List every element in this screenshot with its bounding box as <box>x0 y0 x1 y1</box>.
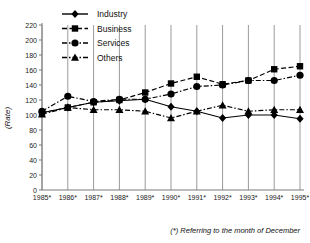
data-point-business-1995 <box>297 63 303 69</box>
y-tick-label: 20 <box>29 172 37 179</box>
legend-label-others: Others <box>97 53 123 63</box>
x-tick-label: 1989* <box>136 194 155 201</box>
data-point-business-1991 <box>194 74 200 80</box>
y-tick-label: 160 <box>25 67 37 74</box>
data-point-services-1992 <box>219 81 226 88</box>
y-tick-label: 80 <box>29 127 37 134</box>
legend-label-services: Services <box>97 38 130 48</box>
data-point-services-1986 <box>64 93 71 100</box>
y-tick-label: 0 <box>33 187 37 194</box>
data-point-industry-1990 <box>167 103 174 111</box>
data-point-industry-1995 <box>296 115 303 123</box>
data-point-services-1988 <box>116 96 123 103</box>
data-point-services-1990 <box>167 90 174 97</box>
data-point-business-1990 <box>168 80 174 86</box>
y-tick-label: 140 <box>25 82 37 89</box>
x-tick-label: 1988* <box>110 194 129 201</box>
x-tick-label: 1987* <box>84 194 103 201</box>
legend-label-business: Business <box>97 24 132 34</box>
x-tick-label: 1986* <box>59 194 78 201</box>
data-point-services-1995 <box>296 72 303 79</box>
y-tick-label: 120 <box>25 97 37 104</box>
y-tick-label: 60 <box>29 142 37 149</box>
y-tick-label: 200 <box>25 37 37 44</box>
data-point-services-1989 <box>142 96 149 103</box>
data-point-business-1994 <box>271 66 277 72</box>
legend-marker-industry <box>71 10 78 18</box>
x-tick-label: 1993* <box>239 194 258 201</box>
data-point-services-1993 <box>245 77 252 84</box>
x-tick-label: 1985* <box>33 194 52 201</box>
data-point-others-1992 <box>219 101 227 108</box>
chart-container: 0204060801001201401601802002201985*1986*… <box>0 0 310 243</box>
line-chart: 0204060801001201401601802002201985*1986*… <box>0 0 310 243</box>
data-point-others-1989 <box>141 107 149 114</box>
x-tick-label: 1994* <box>265 194 284 201</box>
legend-label-industry: Industry <box>97 9 128 19</box>
legend-marker-business <box>72 25 78 31</box>
y-tick-label: 220 <box>25 22 37 29</box>
y-tick-label: 180 <box>25 52 37 59</box>
y-tick-label: 100 <box>25 112 37 119</box>
x-tick-label: 1990* <box>162 194 181 201</box>
x-tick-label: 1992* <box>213 194 232 201</box>
data-point-services-1994 <box>271 77 278 84</box>
data-point-business-1989 <box>142 89 148 95</box>
x-tick-label: 1991* <box>188 194 207 201</box>
data-point-services-1991 <box>193 83 200 90</box>
chart-footnote: (*) Referring to the month of December <box>170 226 300 235</box>
x-tick-label: 1995* <box>291 194 310 201</box>
y-axis-title: (Rate) <box>3 107 12 130</box>
legend-marker-others <box>71 54 79 61</box>
data-point-services-1987 <box>90 98 97 105</box>
legend-marker-services <box>71 39 78 46</box>
data-point-industry-1992 <box>219 114 226 122</box>
y-tick-label: 40 <box>29 157 37 164</box>
